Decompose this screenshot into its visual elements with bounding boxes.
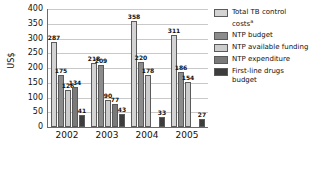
y-axis-tick-200: 200: [16, 64, 43, 72]
legend-label: Total TB control costsa: [232, 8, 309, 28]
x-axis-tick-2004: 2004: [127, 130, 167, 140]
legend-item-first-line-drugs-budget[interactable]: First-line drugs budget: [214, 67, 309, 84]
legend-swatch-icon: [214, 9, 228, 17]
bar-group-2002: 28717512613441: [48, 9, 88, 127]
legend-item-total-tb-control-costs[interactable]: Total TB control costsa: [214, 8, 309, 28]
bar-2004-total-tb-control-costs: 358: [131, 21, 137, 127]
y-axis-title: US$: [7, 41, 16, 81]
bar-group-2005: 31118615427: [168, 9, 208, 127]
legend-item-ntp-budget[interactable]: NTP budget: [214, 31, 309, 40]
legend-label: NTP expenditure: [232, 55, 290, 64]
bar-value-label: 287: [48, 34, 61, 41]
bar-value-label: 27: [198, 111, 206, 118]
bar-2005-ntp-available-funding: 154: [185, 82, 191, 127]
y-axis-tick-0: 0: [16, 123, 43, 131]
y-axis-tick-350: 350: [16, 20, 43, 28]
bar-value-label: 358: [128, 13, 141, 20]
bar-group-2004: 35822017833: [128, 9, 168, 127]
bar-2003-ntp-available-funding: 90: [105, 100, 111, 127]
legend-swatch-icon: [214, 44, 228, 52]
bar-groups: 2871751261344121820990774335822017833311…: [48, 9, 208, 127]
x-axis-tick-labels: 2002200320042005: [47, 130, 207, 140]
legend-item-ntp-available-funding[interactable]: NTP available funding: [214, 43, 309, 52]
legend-label: First-line drugs budget: [232, 67, 309, 84]
bar-value-label: 209: [95, 57, 108, 64]
legend-item-ntp-expenditure[interactable]: NTP expenditure: [214, 55, 309, 64]
legend-label: NTP budget: [232, 31, 273, 40]
bar-2002-total-tb-control-costs: 287: [51, 42, 57, 127]
legend-swatch-icon: [214, 56, 228, 64]
bar-2002-first-line-drugs-budget: 41: [79, 115, 85, 127]
bar-2003-first-line-drugs-budget: 43: [119, 114, 125, 127]
bar-value-label: 178: [142, 67, 155, 74]
bar-value-label: 154: [182, 74, 195, 81]
y-axis-tick-100: 100: [16, 94, 43, 102]
bar-value-label: 77: [111, 96, 119, 103]
y-axis-tick-150: 150: [16, 79, 43, 87]
plot-area: 2871751261344121820990774335822017833311…: [47, 9, 208, 128]
bar-2002-ntp-available-funding: 126: [65, 90, 71, 127]
x-axis-tick-2003: 2003: [87, 130, 127, 140]
bar-value-label: 175: [55, 67, 68, 74]
bar-value-label: 134: [69, 79, 82, 86]
bar-chart: US$ 400350300250200150100500 28717512613…: [0, 0, 309, 172]
y-axis-tick-50: 50: [16, 108, 43, 116]
bar-value-label: 220: [135, 54, 148, 61]
bar-value-label: 33: [158, 109, 166, 116]
x-axis-tick-2002: 2002: [47, 130, 87, 140]
bar-2004-first-line-drugs-budget: 33: [159, 117, 165, 127]
bar-2005-first-line-drugs-budget: 27: [199, 119, 205, 127]
y-axis-tick-250: 250: [16, 49, 43, 57]
bar-2004-ntp-available-funding: 178: [145, 75, 151, 128]
legend-swatch-icon: [214, 68, 228, 76]
y-axis-tick-300: 300: [16, 35, 43, 43]
bar-group-2003: 218209907743: [88, 9, 128, 127]
bar-2005-total-tb-control-costs: 311: [171, 35, 177, 127]
bar-value-label: 186: [175, 64, 188, 71]
bar-value-label: 43: [118, 106, 126, 113]
legend-label: NTP available funding: [232, 43, 308, 52]
bar-2003-total-tb-control-costs: 218: [91, 63, 97, 127]
legend-swatch-icon: [214, 32, 228, 40]
chart-legend: Total TB control costsaNTP budgetNTP ava…: [214, 8, 309, 87]
bar-value-label: 41: [78, 107, 86, 114]
y-axis-tick-400: 400: [16, 5, 43, 13]
bar-value-label: 311: [168, 27, 181, 34]
x-axis-tick-2005: 2005: [167, 130, 207, 140]
